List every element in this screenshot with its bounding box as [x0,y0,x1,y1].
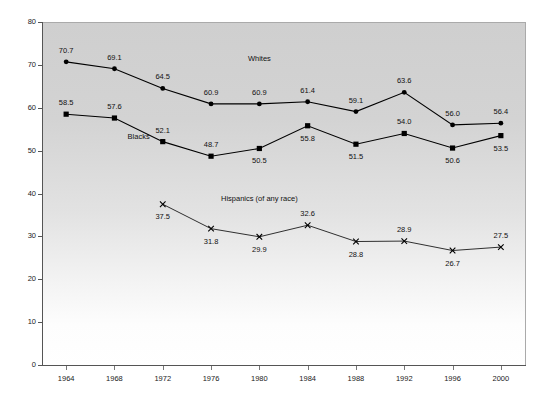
data-point-label: 53.5 [481,144,521,153]
data-point-label: 37.5 [143,212,183,221]
data-point-label: 28.9 [384,225,424,234]
chart-title [0,0,552,6]
y-tick-label: 50 [6,147,36,155]
data-point-label: 29.9 [239,245,279,254]
y-tick: 50 [0,147,36,155]
x-tick-mark [66,366,67,370]
y-tick: 20 [0,275,36,283]
x-tick-label: 1980 [239,374,279,383]
y-tick: 30 [0,232,36,240]
data-point-label: 60.9 [191,88,231,97]
data-point-label: 51.5 [336,152,376,161]
data-point-label: 56.0 [433,109,473,118]
data-point-label: 28.8 [336,250,376,259]
data-point-label: 60.9 [239,88,279,97]
x-tick-label: 1988 [336,374,376,383]
data-point-label: 64.5 [143,72,183,81]
x-tick-label: 1984 [288,374,328,383]
y-tick: 0 [0,361,36,369]
data-point-label: 56.4 [481,107,521,116]
x-tick-label: 1968 [94,374,134,383]
y-tick: 10 [0,318,36,326]
y-tick-label: 30 [6,232,36,240]
y-tick: 60 [0,104,36,112]
x-tick-mark [259,366,260,370]
y-tick-label: 60 [6,104,36,112]
data-point-label: 31.8 [191,237,231,246]
data-point-label: 61.4 [288,86,328,95]
y-tick: 70 [0,61,36,69]
data-point-label: 57.6 [94,102,134,111]
x-tick-mark [501,366,502,370]
series-label-hispanics: Hispanics (of any race) [199,194,319,203]
x-tick-mark [114,366,115,370]
data-point-label: 50.5 [239,156,279,165]
data-point-label: 70.7 [46,46,86,55]
y-tick-label: 0 [6,361,36,369]
data-point-label: 50.6 [433,156,473,165]
data-point-label: 32.6 [288,209,328,218]
data-point-label: 59.1 [336,96,376,105]
series-label-whites: Whites [199,54,319,63]
data-point-label: 69.1 [94,53,134,62]
x-tick-mark [211,366,212,370]
data-point-label: 54.0 [384,117,424,126]
x-tick-mark [453,366,454,370]
y-tick-label: 40 [6,190,36,198]
data-point-label: 58.5 [46,98,86,107]
y-tick: 80 [0,18,36,26]
y-axis-line [42,22,43,366]
data-point-label: 63.6 [384,76,424,85]
y-tick-label: 80 [6,18,36,26]
x-tick-label: 1972 [143,374,183,383]
data-point-label: 26.7 [433,259,473,268]
data-point-label: 48.7 [191,140,231,149]
x-tick-label: 1996 [433,374,473,383]
x-tick-mark [356,366,357,370]
y-tick-label: 20 [6,275,36,283]
chart-figure: 01020304050607080 1964196819721976198019… [0,0,552,402]
x-tick-mark [308,366,309,370]
x-tick-label: 1976 [191,374,231,383]
data-point-label: 27.5 [481,231,521,240]
x-tick-mark [404,366,405,370]
series-label-blacks: Blacks [79,132,199,141]
y-tick-label: 70 [6,61,36,69]
data-point-label: 55.8 [288,134,328,143]
x-tick-label: 2000 [481,374,521,383]
x-tick-label: 1992 [384,374,424,383]
x-tick-label: 1964 [46,374,86,383]
y-tick: 40 [0,190,36,198]
y-tick-label: 10 [6,318,36,326]
x-tick-mark [163,366,164,370]
